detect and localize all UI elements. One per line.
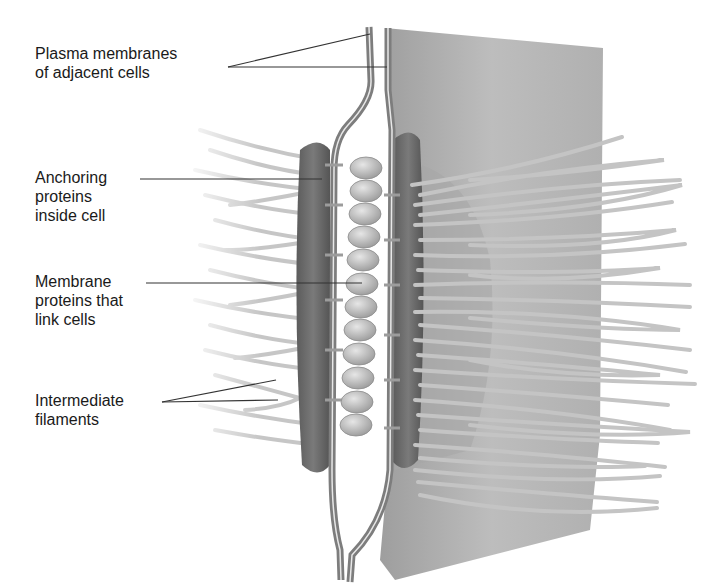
label-membrane-proteins: Membrane proteins that link cells bbox=[35, 272, 123, 329]
membrane-protein-ovals bbox=[340, 157, 382, 436]
label-intermediate-filaments: Intermediate filaments bbox=[35, 391, 124, 429]
desmosome-diagram: Plasma membranes of adjacent cells Ancho… bbox=[0, 0, 707, 587]
label-anchoring-proteins: Anchoring proteins inside cell bbox=[35, 168, 107, 225]
left-plaque bbox=[296, 143, 330, 473]
label-plasma-membranes: Plasma membranes of adjacent cells bbox=[35, 44, 177, 82]
